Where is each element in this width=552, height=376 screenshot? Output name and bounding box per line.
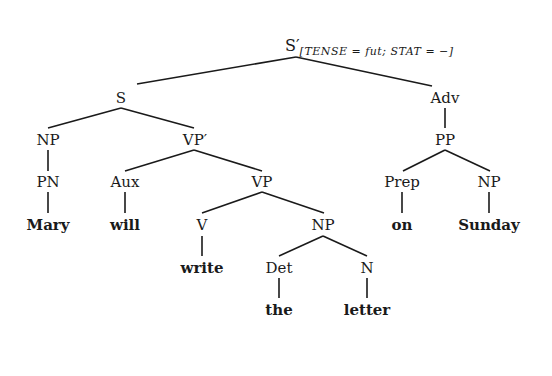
word-will: will	[110, 218, 140, 233]
word-mary: Mary	[27, 218, 70, 233]
node-adv: Adv	[431, 91, 460, 106]
root-label: S′	[285, 36, 300, 55]
root-node-s-bar: S′[TENSE = fut; STAT = −]	[285, 38, 454, 54]
word-write: write	[181, 261, 224, 276]
node-vp-bar: VP′	[183, 133, 207, 148]
node-s: S	[116, 91, 126, 106]
node-v: V	[197, 218, 208, 233]
node-vp: VP	[252, 175, 273, 190]
word-sunday: Sunday	[458, 218, 520, 233]
tree-edges	[0, 0, 552, 376]
node-np-object: NP	[311, 218, 334, 233]
node-n: N	[360, 261, 373, 276]
node-np-subject: NP	[36, 133, 59, 148]
node-aux: Aux	[111, 175, 140, 190]
node-pp: PP	[435, 133, 455, 148]
word-on: on	[392, 218, 413, 233]
node-pn: PN	[36, 175, 59, 190]
node-np-pp: NP	[477, 175, 500, 190]
root-features: [TENSE = fut; STAT = −]	[300, 45, 454, 58]
node-det: Det	[266, 261, 293, 276]
word-the: the	[265, 303, 292, 318]
word-letter: letter	[344, 303, 391, 318]
node-prep: Prep	[384, 175, 420, 190]
